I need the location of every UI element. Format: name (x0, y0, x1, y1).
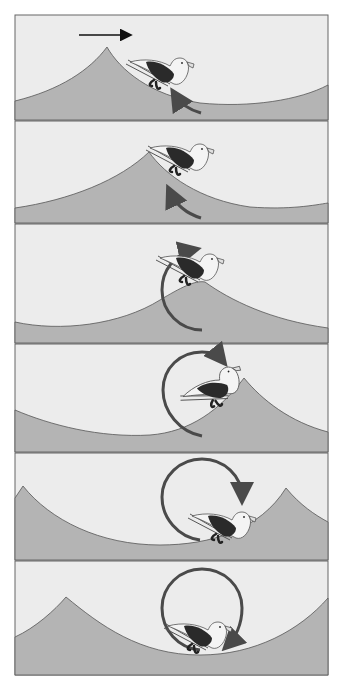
panel-1 (15, 15, 328, 120)
panel-3 (15, 224, 328, 343)
panel-4 (15, 344, 328, 452)
panel-2 (15, 121, 328, 223)
panel-6 (15, 561, 328, 675)
wave-orbit-diagram (0, 0, 341, 689)
panel-5 (15, 453, 328, 560)
